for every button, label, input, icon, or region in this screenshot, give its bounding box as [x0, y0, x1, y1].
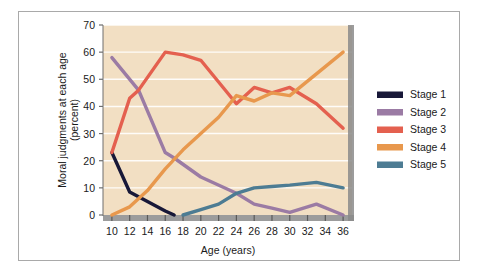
y-tick-label: 50	[83, 73, 95, 85]
y-tick-label: 60	[83, 46, 95, 58]
x-tick-label: 28	[266, 225, 278, 237]
x-tick-label: 18	[177, 225, 189, 237]
legend-label-stage-2: Stage 2	[410, 106, 446, 118]
y-axis-title-line1: Moral judgments at each age	[56, 52, 68, 188]
x-tick-label: 30	[284, 225, 296, 237]
y-tick-label: 10	[83, 182, 95, 194]
legend-swatch-stage-1	[377, 92, 403, 99]
x-tick-label: 16	[159, 225, 171, 237]
y-tick-label: 40	[83, 100, 95, 112]
chart-legend: Stage 1Stage 2Stage 3Stage 4Stage 5	[377, 88, 446, 170]
y-tick-label: 70	[83, 19, 95, 31]
legend-label-stage-4: Stage 4	[410, 141, 446, 153]
x-tick-label: 10	[106, 225, 118, 237]
y-tick-label: 0	[89, 209, 95, 221]
y-axis-title-line2: (percent)	[68, 99, 80, 141]
y-axis-tick-labels: 010203040506070	[83, 19, 95, 221]
x-tick-label: 26	[248, 225, 260, 237]
chart-figure: 010203040506070 101214161820222426283032…	[0, 0, 480, 277]
legend-swatch-stage-2	[377, 109, 403, 116]
x-tick-label: 32	[302, 225, 314, 237]
x-tick-label: 12	[124, 225, 136, 237]
x-tick-label: 20	[195, 225, 207, 237]
x-tick-label: 14	[142, 225, 154, 237]
legend-label-stage-5: Stage 5	[410, 158, 446, 170]
legend-swatch-stage-4	[377, 144, 403, 151]
legend-swatch-stage-5	[377, 162, 403, 169]
line-chart: 010203040506070 101214161820222426283032…	[0, 0, 480, 277]
x-tick-label: 34	[319, 225, 331, 237]
x-axis-tick-labels: 1012141618202224262830323436	[106, 225, 349, 237]
legend-label-stage-1: Stage 1	[410, 88, 446, 100]
x-tick-label: 36	[337, 225, 349, 237]
y-tick-label: 20	[83, 155, 95, 167]
plot-right-shadow	[348, 25, 354, 221]
y-tick-label: 30	[83, 128, 95, 140]
legend-label-stage-3: Stage 3	[410, 123, 446, 135]
x-axis-title: Age (years)	[201, 244, 255, 256]
plot-area-background	[103, 25, 352, 215]
x-tick-label: 24	[231, 225, 243, 237]
x-tick-label: 22	[213, 225, 225, 237]
plot-bottom-axis	[103, 215, 354, 221]
y-axis-ticks	[99, 25, 103, 215]
legend-swatch-stage-3	[377, 127, 403, 134]
